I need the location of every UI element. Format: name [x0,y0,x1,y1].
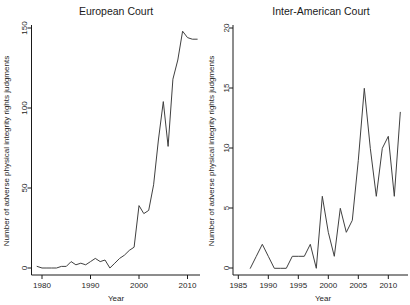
y-tick-label: 100 [20,101,29,115]
x-tick-label: 2000 [130,281,148,290]
x-axis-label-left: Year [108,294,125,303]
x-axis-label-right: Year [315,294,332,303]
x-tick-label: 1980 [33,281,51,290]
y-tick-label: 15 [222,83,231,92]
y-tick-label: 0 [20,265,29,270]
y-tick-label: 5 [222,205,231,210]
y-tick-label: 0 [222,265,231,270]
x-tick-label: 1995 [289,281,307,290]
x-ticks-left: 1980 1990 2000 2010 [33,275,197,290]
x-tick-label: 1990 [259,281,277,290]
x-tick-label: 2010 [179,281,197,290]
y-tick-label: 150 [20,21,29,35]
x-tick-label: 2010 [379,281,397,290]
y-tick-label: 10 [222,143,231,152]
x-tick-label: 2000 [319,281,337,290]
y-axis-label-left: Number of adverse physical integrity rig… [2,56,11,246]
judgments-line-european [37,31,197,268]
y-tick-label: 20 [222,23,231,32]
chart-inter-american-court: Inter-American Court 0 5 10 15 20 1985 [205,0,410,305]
chart-title-right: Inter-American Court [272,5,370,17]
x-tick-label: 1990 [82,281,100,290]
x-ticks-right: 1985 1990 1995 2000 2005 2010 [229,275,397,290]
two-panel-line-figure: European Court 0 50 100 150 1980 1990 20… [0,0,410,305]
x-tick-label: 2005 [349,281,367,290]
chart-european-court: European Court 0 50 100 150 1980 1990 20… [0,0,205,305]
y-tick-label: 50 [20,183,29,192]
y-ticks-left: 0 50 100 150 [20,21,32,270]
chart-title-left: European Court [79,5,153,17]
y-ticks-right: 0 5 10 15 20 [222,23,234,270]
x-tick-label: 1985 [229,281,247,290]
judgments-line-inter-american [250,88,400,268]
y-axis-label-right: Number of adverse physical integrity rig… [207,56,216,246]
